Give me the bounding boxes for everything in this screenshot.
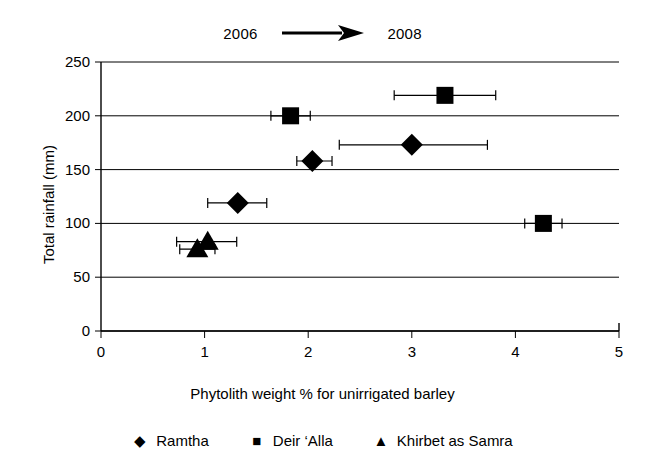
diamond-marker-icon — [401, 134, 423, 156]
legend-label-deir-alla: Deir ‘Alla — [273, 432, 333, 449]
x-axis-tick-label: 5 — [615, 343, 623, 360]
triangle-marker-icon: ▲ — [373, 433, 389, 449]
diamond-marker-icon — [227, 192, 249, 214]
scatter-plot: 050100150200250012345 — [0, 0, 645, 400]
legend-item-khirbet-as-samra: ▲ Khirbet as Samra — [373, 432, 513, 449]
y-axis-tick-label: 200 — [65, 107, 90, 124]
y-axis-tick-label: 50 — [73, 268, 90, 285]
legend-item-ramtha: ◆ Ramtha — [132, 432, 209, 449]
y-axis-tick-label: 150 — [65, 161, 90, 178]
y-axis-tick-label: 250 — [65, 53, 90, 70]
square-marker-icon: ■ — [249, 433, 265, 449]
y-axis-tick-label: 0 — [82, 322, 90, 339]
chart-figure: 2006 2008 050100150200250012345 Total ra… — [0, 0, 645, 476]
diamond-marker-icon — [301, 150, 323, 172]
square-marker-icon — [282, 107, 299, 124]
x-axis-tick-label: 4 — [511, 343, 519, 360]
legend-item-deir-alla: ■ Deir ‘Alla — [249, 432, 333, 449]
square-marker-icon — [436, 87, 453, 104]
x-axis-tick-label: 3 — [408, 343, 416, 360]
x-axis-tick-label: 0 — [97, 343, 105, 360]
legend-label-ramtha: Ramtha — [156, 432, 209, 449]
x-axis-title: Phytolith weight % for unirrigated barle… — [0, 385, 645, 402]
x-axis-tick-label: 1 — [200, 343, 208, 360]
x-axis-tick-label: 2 — [304, 343, 312, 360]
diamond-marker-icon: ◆ — [132, 433, 148, 449]
y-axis-title: Total rainfall (mm) — [40, 105, 57, 305]
square-marker-icon — [535, 215, 552, 232]
y-axis-tick-label: 100 — [65, 214, 90, 231]
legend-label-khirbet-as-samra: Khirbet as Samra — [397, 432, 513, 449]
chart-legend: ◆ Ramtha ■ Deir ‘Alla ▲ Khirbet as Samra — [0, 432, 645, 449]
